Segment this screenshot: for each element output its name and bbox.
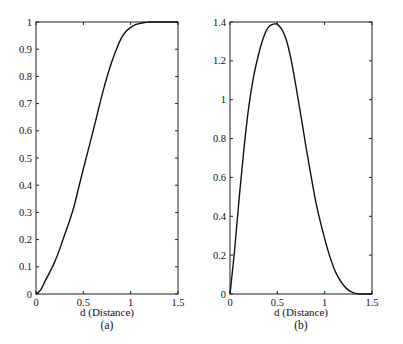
x-axis-label: d (Distance) <box>80 306 134 319</box>
y-tick-label: 1 <box>221 94 226 105</box>
y-tick-label: 0 <box>27 289 32 300</box>
y-tick-label: 0.4 <box>19 180 33 191</box>
axes-box <box>36 22 178 294</box>
y-tick-label: 1.2 <box>213 55 226 66</box>
x-tick-label: 1.5 <box>171 297 184 308</box>
panel-caption: (b) <box>294 319 308 332</box>
y-tick-label: 0.5 <box>19 153 32 164</box>
y-tick-label: 0 <box>221 289 226 300</box>
y-tick-label: 1.4 <box>213 17 227 28</box>
y-tick-label: 0.8 <box>19 71 32 82</box>
data-line-curve <box>36 22 178 294</box>
chart-panel-a: 00.10.20.30.40.50.60.70.80.9100.511.5d (… <box>19 17 185 333</box>
y-tick-label: 0.1 <box>19 261 32 272</box>
panel-caption: (a) <box>101 319 114 332</box>
y-tick-label: 0.8 <box>213 133 226 144</box>
x-tick-label: 0 <box>33 297 38 308</box>
y-tick-label: 0.2 <box>213 250 226 261</box>
y-tick-label: 0.2 <box>19 234 32 245</box>
y-tick-label: 1 <box>27 17 32 28</box>
x-axis-label: d (Distance) <box>274 306 328 319</box>
y-tick-label: 0.3 <box>19 207 32 218</box>
x-tick-label: 1.5 <box>365 297 378 308</box>
x-tick-label: 0 <box>227 297 232 308</box>
axes-box <box>230 22 372 294</box>
chart-panel-b: 00.20.40.60.811.21.400.511.5d (Distance)… <box>213 17 379 333</box>
y-tick-label: 0.9 <box>19 44 32 55</box>
y-tick-label: 0.7 <box>19 98 32 109</box>
data-line-curve <box>230 24 372 294</box>
y-tick-label: 0.6 <box>213 172 226 183</box>
figure: 00.10.20.30.40.50.60.70.80.9100.511.5d (… <box>0 0 403 344</box>
y-tick-label: 0.6 <box>19 125 32 136</box>
y-tick-label: 0.4 <box>213 211 227 222</box>
